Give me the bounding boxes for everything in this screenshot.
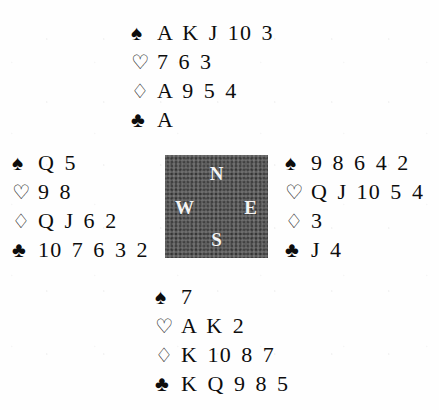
east-spades-cards: 9 8 6 4 2 [306, 148, 409, 177]
diamond-icon: ♢ [131, 77, 152, 106]
south-clubs-cards: K Q 9 8 5 [176, 369, 289, 398]
east-clubs-cards: J 4 [306, 235, 342, 264]
north-diamonds-cards: A 9 5 4 [152, 76, 238, 105]
west-spades-row: ♠ Q 5 [12, 148, 149, 177]
spade-icon: ♠ [155, 283, 176, 312]
north-hearts-cards: 7 6 3 [152, 47, 212, 76]
heart-icon: ♡ [131, 48, 152, 77]
south-spades-cards: 7 [176, 282, 193, 311]
club-icon: ♣ [285, 236, 306, 265]
north-diamonds-row: ♢ A 9 5 4 [131, 76, 274, 105]
south-spades-row: ♠ 7 [155, 282, 289, 311]
club-icon: ♣ [131, 106, 152, 135]
east-diamonds-row: ♢ 3 [285, 206, 424, 235]
diamond-icon: ♢ [155, 341, 176, 370]
club-icon: ♣ [155, 370, 176, 399]
west-spades-cards: Q 5 [33, 148, 77, 177]
east-spades-row: ♠ 9 8 6 4 2 [285, 148, 424, 177]
compass-east-label: E [244, 197, 257, 216]
heart-icon: ♡ [155, 312, 176, 341]
south-hearts-row: ♡ A K 2 [155, 311, 289, 340]
north-clubs-cards: A [152, 105, 174, 134]
west-hearts-cards: 9 8 [33, 177, 72, 206]
west-diamonds-cards: Q J 6 2 [33, 206, 117, 235]
hand-west: ♠ Q 5 ♡ 9 8 ♢ Q J 6 2 ♣ 10 7 6 3 2 [12, 148, 149, 264]
heart-icon: ♡ [12, 178, 33, 207]
east-clubs-row: ♣ J 4 [285, 235, 424, 264]
north-clubs-row: ♣ A [131, 105, 274, 134]
compass-west-label: W [175, 197, 194, 216]
west-clubs-cards: 10 7 6 3 2 [33, 235, 149, 264]
spade-icon: ♠ [131, 19, 152, 48]
east-hearts-row: ♡ Q J 10 5 4 [285, 177, 424, 206]
south-hearts-cards: A K 2 [176, 311, 245, 340]
compass-square: N W E S [165, 155, 268, 258]
compass-south-label: S [165, 230, 268, 249]
heart-icon: ♡ [285, 178, 306, 207]
spade-icon: ♠ [12, 149, 33, 178]
club-icon: ♣ [12, 236, 33, 265]
hand-north: ♠ A K J 10 3 ♡ 7 6 3 ♢ A 9 5 4 ♣ A [131, 18, 274, 134]
north-spades-row: ♠ A K J 10 3 [131, 18, 274, 47]
west-hearts-row: ♡ 9 8 [12, 177, 149, 206]
hand-east: ♠ 9 8 6 4 2 ♡ Q J 10 5 4 ♢ 3 ♣ J 4 [285, 148, 424, 264]
north-spades-cards: A K J 10 3 [152, 18, 274, 47]
east-diamonds-cards: 3 [306, 206, 323, 235]
bridge-deal-diagram: ♠ A K J 10 3 ♡ 7 6 3 ♢ A 9 5 4 ♣ A ♠ Q 5… [0, 0, 439, 410]
spade-icon: ♠ [285, 149, 306, 178]
hand-south: ♠ 7 ♡ A K 2 ♢ K 10 8 7 ♣ K Q 9 8 5 [155, 282, 289, 398]
south-diamonds-cards: K 10 8 7 [176, 340, 275, 369]
east-hearts-cards: Q J 10 5 4 [306, 177, 424, 206]
south-diamonds-row: ♢ K 10 8 7 [155, 340, 289, 369]
west-diamonds-row: ♢ Q J 6 2 [12, 206, 149, 235]
diamond-icon: ♢ [12, 207, 33, 236]
north-hearts-row: ♡ 7 6 3 [131, 47, 274, 76]
west-clubs-row: ♣ 10 7 6 3 2 [12, 235, 149, 264]
diamond-icon: ♢ [285, 207, 306, 236]
compass-north-label: N [165, 164, 268, 183]
south-clubs-row: ♣ K Q 9 8 5 [155, 369, 289, 398]
